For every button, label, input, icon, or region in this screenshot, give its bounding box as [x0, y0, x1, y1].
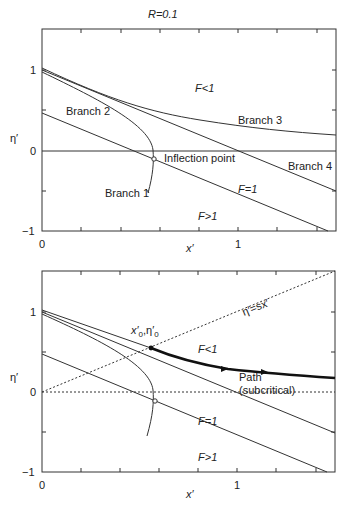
label-x0-eta0: x′0,η′0	[130, 324, 159, 339]
label-subcritical: (subcritical)	[239, 384, 295, 396]
top-xtick-0: 0	[39, 238, 45, 250]
top-label-inflection: Inflection point	[164, 152, 235, 164]
top-label-branch1: Branch 1	[105, 187, 149, 199]
bottom-x-axis-label: x′	[185, 488, 195, 500]
bottom-xtick-0: 0	[39, 479, 45, 491]
start-point-marker	[149, 346, 154, 351]
top-xtick-1: 1	[235, 238, 241, 250]
top-x-axis-label: x′	[185, 242, 195, 254]
top-ytick-0: 0	[30, 145, 36, 157]
figure: R=0.1 1 0	[0, 0, 347, 508]
top-label-branch2: Branch 2	[66, 105, 110, 117]
bottom-label-f-gt-1: F>1	[198, 451, 217, 463]
top-label-f-gt-1: F>1	[198, 210, 217, 222]
bottom-f-equals-1-line	[42, 354, 327, 472]
top-branch-curve	[42, 72, 153, 193]
top-y-axis-label: η′	[10, 132, 18, 144]
top-label-f-lt-1: F<1	[195, 82, 214, 94]
label-path: Path	[239, 371, 262, 383]
top-label-branch4: Branch 4	[288, 160, 332, 172]
bottom-label-f-eq-1: F=1	[198, 415, 217, 427]
path-arrow-1	[221, 366, 228, 372]
inflection-point-marker	[152, 157, 156, 161]
bottom-y-axis-label: η′	[10, 371, 18, 383]
top-x-ticks	[81, 29, 317, 231]
top-branch3-curve	[42, 68, 336, 135]
bottom-xtick-1: 1	[234, 479, 240, 491]
top-branch4-line	[42, 70, 336, 191]
label-eta-sx: η′=sx′	[240, 296, 270, 317]
bottom-inflection-marker	[153, 399, 157, 403]
top-chart-title: R=0.1	[148, 8, 178, 20]
top-label-branch3: Branch 3	[238, 114, 282, 126]
bottom-label-f-lt-1: F<1	[198, 343, 217, 355]
bottom-ytick-neg1: −1	[22, 466, 35, 478]
bottom-plot-frame	[42, 271, 335, 472]
top-ytick-neg1: −1	[22, 225, 35, 237]
top-ytick-1: 1	[30, 64, 36, 76]
bottom-ytick-1: 1	[30, 306, 36, 318]
top-chart: R=0.1 1 0	[10, 8, 336, 254]
top-label-f-eq-1: F=1	[238, 183, 257, 195]
bottom-ytick-0: 0	[30, 386, 36, 398]
bottom-chart: 1 0 −1 0 1 x′ η′ x′0,η′0 η′=sx′ F<1 Path…	[10, 271, 335, 500]
bottom-x-ticks	[81, 271, 316, 472]
